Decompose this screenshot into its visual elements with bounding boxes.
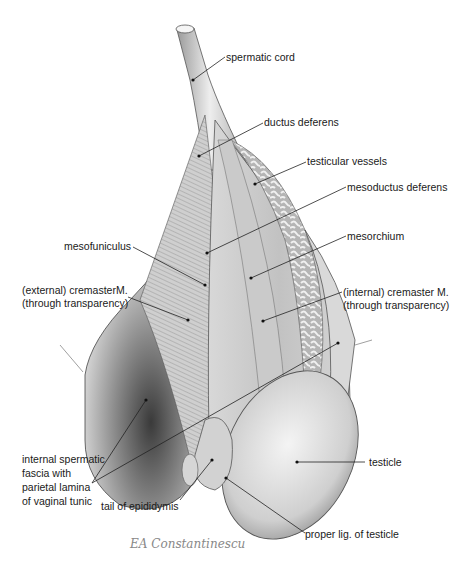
label-internal-spermatic-fascia: internal spermatic fascia with parietal … — [22, 452, 105, 508]
label-testicular-vessels: testicular vessels — [307, 155, 387, 168]
artist-signature: EA Constantinescu — [130, 538, 245, 551]
label-line: internal spermatic — [22, 452, 105, 466]
label-mesoductus-deferens: mesoductus deferens — [347, 181, 447, 194]
label-testicle: testicle — [369, 456, 402, 469]
label-external-cremaster: (external) cremasterM. (through transpar… — [22, 284, 128, 310]
label-mesofuniculus: mesofuniculus — [64, 240, 131, 253]
label-line: parietal lamina — [22, 480, 105, 494]
label-internal-cremaster: (internal) cremaster M. (through transpa… — [343, 286, 449, 312]
label-line: (through transparency) — [343, 299, 449, 312]
label-line: (through transparency) — [22, 297, 128, 310]
label-mesorchium: mesorchium — [347, 230, 404, 243]
label-ductus-deferens: ductus deferens — [264, 116, 339, 129]
label-spermatic-cord: spermatic cord — [226, 51, 295, 64]
label-proper-lig: proper lig. of testicle — [305, 528, 399, 541]
label-line: of vaginal tunic — [22, 494, 105, 508]
label-line: (internal) cremaster M. — [343, 286, 449, 299]
label-tail-of-epididymis: tail of epididymis — [101, 500, 179, 513]
label-line: (external) cremasterM. — [22, 284, 128, 297]
label-line: fascia with — [22, 466, 105, 480]
